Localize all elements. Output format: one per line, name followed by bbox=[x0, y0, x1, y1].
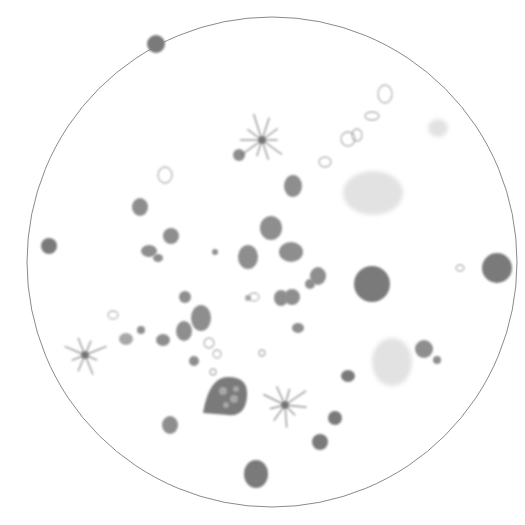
dark-cell bbox=[482, 253, 512, 283]
cell bbox=[189, 356, 199, 366]
cell bbox=[233, 149, 245, 161]
cell bbox=[310, 267, 326, 285]
microscope-field-drawing bbox=[0, 0, 525, 525]
crystal-cluster bbox=[240, 114, 282, 160]
cell bbox=[279, 242, 303, 262]
cell bbox=[176, 321, 192, 341]
ring-cell bbox=[456, 265, 464, 271]
cell bbox=[415, 340, 433, 358]
dark-cell bbox=[41, 238, 57, 254]
cell bbox=[191, 305, 211, 331]
dark-cells bbox=[41, 35, 512, 488]
ring-cell bbox=[365, 112, 379, 120]
ring-cell bbox=[259, 350, 265, 356]
large-cell-body bbox=[203, 377, 247, 415]
ring-cell bbox=[210, 369, 216, 375]
pale-mass bbox=[372, 338, 412, 386]
pale-mass bbox=[428, 119, 448, 137]
vacuole bbox=[233, 386, 239, 392]
cell bbox=[274, 290, 288, 306]
cell bbox=[156, 334, 170, 346]
cell bbox=[132, 198, 148, 216]
dark-cell bbox=[354, 266, 390, 302]
cell bbox=[433, 356, 441, 364]
ring-cells bbox=[108, 85, 464, 375]
vacuole bbox=[219, 387, 227, 395]
cell bbox=[284, 175, 302, 197]
crystal-cluster bbox=[65, 338, 107, 375]
cell bbox=[212, 249, 218, 255]
cell bbox=[137, 326, 145, 334]
ring-cell bbox=[378, 85, 392, 103]
dark-cell bbox=[341, 370, 355, 382]
cell bbox=[153, 254, 163, 262]
dark-cell bbox=[147, 35, 165, 53]
ring-cell bbox=[108, 311, 118, 319]
microscope-field bbox=[0, 0, 525, 525]
dark-cell bbox=[312, 434, 328, 450]
large-vacuolated-cell bbox=[203, 377, 247, 415]
cell bbox=[292, 323, 304, 333]
light-cell bbox=[245, 295, 251, 301]
ring-cell bbox=[158, 167, 172, 183]
cell bbox=[163, 228, 179, 244]
crystal-clusters bbox=[65, 114, 307, 428]
field-of-view-circle bbox=[27, 17, 517, 507]
ring-cell bbox=[213, 350, 221, 358]
cell bbox=[238, 245, 258, 269]
pale-mass bbox=[343, 171, 403, 215]
vacuole bbox=[230, 395, 238, 403]
vacuole bbox=[223, 402, 229, 408]
cell bbox=[260, 216, 282, 240]
light-cell bbox=[119, 333, 133, 345]
dark-cell bbox=[244, 460, 268, 488]
ring-cell bbox=[319, 157, 331, 167]
ring-cell bbox=[204, 338, 214, 348]
crystal-cluster bbox=[263, 386, 306, 427]
cell bbox=[162, 416, 178, 434]
dark-cell bbox=[328, 411, 342, 425]
cell bbox=[179, 291, 191, 303]
